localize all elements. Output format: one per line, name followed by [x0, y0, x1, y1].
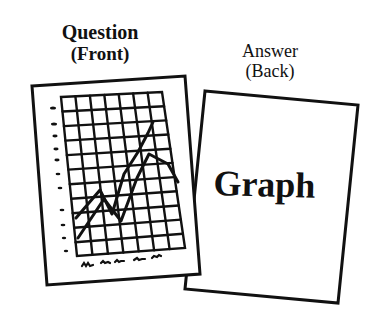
question-card — [32, 76, 200, 285]
flashcard-illustration — [0, 0, 373, 324]
answer-text: Graph — [213, 162, 334, 207]
